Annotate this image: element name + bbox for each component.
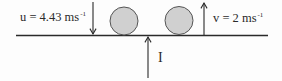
impulse-label: I [158,51,163,65]
incoming-velocity-text: u = 4.43 ms [20,10,79,24]
collision-diagram: u = 4.43 ms-1 v = 2 ms-1 I [0,0,282,81]
incoming-velocity-label: u = 4.43 ms-1 [20,11,86,24]
ball-1 [110,7,138,35]
ball-2 [165,7,193,35]
outgoing-velocity-label: v = 2 ms-1 [213,12,263,25]
incoming-velocity-exponent: -1 [80,10,86,18]
outgoing-velocity-exponent: -1 [258,11,264,19]
outgoing-velocity-text: v = 2 ms [213,11,257,25]
